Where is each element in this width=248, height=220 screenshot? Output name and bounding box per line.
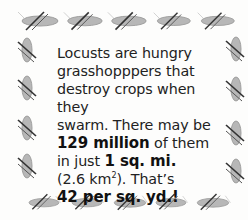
density-value: 42 per sq. yd.! bbox=[57, 188, 179, 206]
locust-icon bbox=[16, 152, 38, 180]
locust-icon bbox=[16, 114, 38, 142]
fact-line: (2.6 km2). That’s bbox=[57, 170, 222, 188]
locust-icon bbox=[14, 8, 62, 32]
fact-line: 42 per sq. yd.! bbox=[57, 188, 222, 206]
locust-icon bbox=[104, 8, 150, 32]
locust-icon bbox=[16, 36, 38, 64]
locust-icon bbox=[16, 74, 38, 102]
locust-fact-card: Locusts are hungry grasshopppers that de… bbox=[0, 0, 248, 220]
fact-line: destroy crops when they bbox=[57, 80, 222, 116]
fact-line: in just 1 sq. mi. bbox=[57, 152, 222, 170]
locust-icon bbox=[150, 8, 194, 32]
fact-line: swarm. There may be bbox=[57, 116, 222, 134]
fact-line: Locusts are hungry bbox=[57, 44, 222, 62]
fact-text: Locusts are hungry grasshopppers that de… bbox=[57, 44, 222, 206]
fact-line: 129 million of them bbox=[57, 134, 222, 152]
fact-line: grasshopppers that bbox=[57, 62, 222, 80]
swarm-count: 129 million bbox=[57, 134, 150, 152]
locust-icon bbox=[60, 8, 106, 32]
locust-icon bbox=[224, 74, 246, 104]
area-value: 1 sq. mi. bbox=[104, 152, 176, 170]
locust-icon bbox=[224, 34, 246, 64]
locust-icon bbox=[194, 8, 238, 32]
locust-icon bbox=[224, 156, 246, 186]
locust-icon bbox=[224, 118, 246, 148]
